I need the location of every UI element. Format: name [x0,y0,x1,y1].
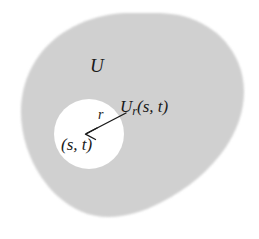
label-set-U: U [90,56,104,75]
label-radius-r: r [98,108,103,122]
label-ball-Ur: Ur(s, t) [120,98,168,118]
diagram-svg [0,0,259,239]
label-ball-arguments: (s, t) [137,97,168,116]
label-ball-base: U [120,97,132,116]
figure-canvas: U Ur(s, t) (s, t) r [0,0,259,239]
label-center-point: (s, t) [61,136,92,153]
